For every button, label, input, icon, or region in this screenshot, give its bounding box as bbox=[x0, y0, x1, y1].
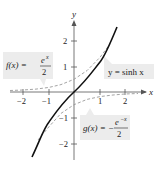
x-axis-arrow bbox=[141, 90, 147, 95]
f-label-den: 2 bbox=[42, 67, 46, 77]
f-label-pointer bbox=[40, 79, 46, 86]
f-label-num: e bbox=[41, 55, 45, 65]
y-tick-label: −2 bbox=[59, 139, 68, 149]
g-label-sup: −x bbox=[120, 116, 127, 122]
g-label-lhs: g(x) = − bbox=[83, 123, 114, 133]
y-tick-label: 2 bbox=[63, 36, 67, 46]
y-tick-label: 1 bbox=[63, 62, 67, 72]
sinh-chart: −2 −1 1 2 2 1 −1 −2 x y f(x) = e x 2 y =… bbox=[0, 0, 160, 170]
sinh-label-pointer bbox=[104, 56, 112, 64]
y-axis-label: y bbox=[71, 9, 76, 19]
x-tick-label: 1 bbox=[98, 96, 102, 106]
g-label-pointer bbox=[86, 108, 94, 115]
g-label-den: 2 bbox=[117, 129, 121, 139]
x-tick-label: −2 bbox=[17, 96, 26, 106]
f-label-lhs: f(x) = bbox=[6, 60, 27, 70]
g-label-num: e bbox=[115, 117, 119, 127]
x-tick-label: 2 bbox=[123, 96, 127, 106]
sinh-label: y = sinh x bbox=[108, 67, 144, 77]
x-tick-label: −1 bbox=[42, 96, 51, 106]
x-axis-label: x bbox=[148, 87, 153, 97]
y-axis-arrow bbox=[72, 20, 77, 26]
f-label-sup: x bbox=[45, 54, 49, 60]
y-tick-label: −1 bbox=[59, 113, 68, 123]
